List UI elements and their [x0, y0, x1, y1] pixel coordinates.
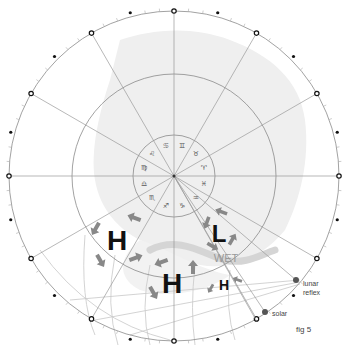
degree-tick [36, 271, 38, 273]
low-pressure: L [212, 220, 227, 247]
high-pressure-small: H [219, 277, 229, 293]
zodiac-sagittarius-icon: ♐ [163, 202, 169, 210]
degree-tick [9, 147, 12, 148]
degree-tick [117, 331, 118, 334]
cusp-marker [315, 256, 319, 260]
degree-tick [269, 38, 271, 40]
mid-house-dot [336, 218, 339, 221]
degree-tick [16, 232, 19, 233]
degree-tick [66, 302, 68, 304]
high-pressure-west: H [107, 225, 127, 256]
zodiac-cancer-icon: ♋ [163, 142, 169, 150]
lunar-reflex-point [293, 277, 299, 283]
zodiac-pisces-icon: ♓ [201, 180, 207, 188]
degree-tick [36, 80, 38, 82]
degree-tick [280, 47, 282, 49]
high-pressure-south: H [162, 268, 182, 299]
reflex-label: reflex [303, 289, 321, 296]
degree-tick [22, 246, 25, 247]
degree-tick [45, 282, 47, 284]
degree-tick [244, 326, 245, 329]
degree-tick [16, 119, 19, 120]
cusp-marker [172, 339, 176, 343]
zodiac-scorpio-icon: ♏ [149, 194, 156, 202]
cusp-marker [89, 317, 93, 321]
mid-house-dot [53, 294, 56, 297]
degree-tick [280, 302, 282, 304]
cusp-marker [172, 9, 176, 13]
degree-tick [22, 105, 25, 106]
mid-house-dot [9, 131, 12, 134]
mid-house-dot [9, 218, 12, 221]
degree-tick [309, 80, 311, 82]
degree-tick [66, 47, 68, 49]
center-point [173, 175, 176, 178]
mid-house-dot [292, 294, 295, 297]
cusp-marker [7, 174, 11, 178]
zodiac-aries-icon: ♈ [201, 164, 207, 172]
solar-label: solar [272, 310, 288, 317]
degree-tick [269, 311, 271, 313]
mid-house-dot [216, 11, 219, 14]
degree-tick [300, 68, 302, 70]
zodiac-leo-icon: ♌ [149, 150, 155, 158]
degree-tick [230, 18, 231, 21]
cusp-marker [254, 31, 258, 35]
degree-tick [324, 246, 327, 247]
degree-tick [336, 147, 339, 148]
degree-tick [45, 68, 47, 70]
mid-house-dot [129, 338, 132, 341]
mid-house-dot [129, 11, 132, 14]
zodiac-capricorn-icon: ♑ [179, 202, 185, 210]
degree-tick [329, 232, 332, 233]
mid-house-dot [336, 131, 339, 134]
zodiac-libra-icon: ♎ [141, 180, 147, 188]
degree-tick [203, 11, 204, 14]
figure-label: fig 5 [296, 325, 312, 334]
circulation-arrow-icon [88, 220, 104, 237]
wet-label: WET [214, 252, 239, 264]
degree-tick [103, 24, 104, 27]
zodiac-taurus-icon: ♉ [193, 150, 199, 158]
degree-tick [117, 18, 118, 21]
degree-tick [203, 338, 204, 341]
astro-weather-chart: ♈♉♊♋♌♍♎♏♐♑♒♓ H L H H WET lunar reflex so… [0, 0, 348, 355]
solar-point [262, 309, 268, 315]
cusp-marker [337, 174, 341, 178]
degree-tick [103, 326, 104, 329]
cusp-marker [29, 256, 33, 260]
degree-tick [145, 11, 146, 14]
zodiac-gemini-icon: ♊ [179, 142, 185, 150]
degree-tick [78, 38, 80, 40]
degree-tick [78, 311, 80, 313]
cusp-marker [89, 31, 93, 35]
degree-tick [9, 205, 12, 206]
cusp-marker [29, 91, 33, 95]
degree-tick [230, 331, 231, 334]
degree-tick [244, 24, 245, 27]
mid-house-dot [292, 55, 295, 58]
degree-tick [324, 105, 327, 106]
degree-tick [145, 338, 146, 341]
mid-house-dot [53, 55, 56, 58]
mid-house-dot [216, 338, 219, 341]
cusp-marker [254, 317, 258, 321]
cusp-marker [315, 91, 319, 95]
degree-tick [336, 205, 339, 206]
degree-tick [309, 271, 311, 273]
degree-tick [329, 119, 332, 120]
lunar-label: lunar [303, 280, 319, 287]
zodiac-virgo-icon: ♍ [141, 164, 147, 172]
